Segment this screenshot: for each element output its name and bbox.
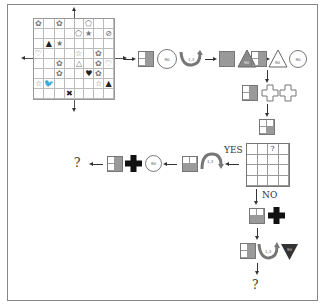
flow-arrow-yes-3: [93, 164, 103, 165]
quad-square-yes-1: [182, 156, 198, 172]
quad-square-step2: [219, 51, 235, 67]
star-icon: ★: [55, 39, 65, 49]
svg-text:90: 90: [275, 60, 281, 65]
grid-cell: [44, 59, 55, 69]
grid-cell: [75, 39, 85, 49]
rotate-circle-yes: 90: [145, 155, 162, 172]
flow-arrowhead-yes-3: [89, 162, 93, 166]
flow-arrow-yes: [229, 164, 239, 165]
no-result-question: ?: [252, 278, 258, 292]
query-grid-cell: ?: [268, 144, 279, 155]
flip-arrow-icon-yes: 1,3: [200, 151, 224, 171]
flow-arrow-down-2: [267, 104, 268, 113]
query-grid-cell: [279, 155, 290, 166]
grid-cell: [55, 29, 65, 39]
x-axis-arrow-left: [21, 56, 25, 60]
grid-cell: [75, 79, 85, 89]
grid-cell: [65, 29, 75, 39]
grid-cell: [34, 29, 44, 39]
flow-arrowhead-1: [132, 57, 136, 61]
query-grid-cell: [247, 176, 258, 187]
query-grid-cell: [258, 176, 269, 187]
outline-cross-icon: [261, 84, 279, 102]
grid-cell: [55, 89, 65, 99]
grid-cell: [94, 29, 104, 39]
grid-cell: [94, 39, 104, 49]
flow-arrowhead-no: [254, 201, 258, 205]
quad-square-no-1: [249, 208, 265, 224]
query-grid-cell: [258, 155, 269, 166]
triangle-icon: ▲: [44, 39, 55, 49]
flow-arrow-down-1: [267, 70, 268, 79]
triangle-icon: ▲: [104, 79, 114, 89]
flower-icon: ✿: [55, 59, 65, 69]
grid-cell: [94, 89, 104, 99]
yes-result-question: ?: [74, 156, 80, 170]
flip-arrow-icon-no: 1,3: [256, 241, 280, 261]
flow-arrow-no-3: [257, 263, 258, 271]
grid-cell: [34, 69, 44, 79]
grid-cell: [55, 49, 65, 59]
quad-square-step3: [251, 51, 267, 67]
flow-arrowhead-no-2: [255, 236, 259, 240]
quad-square-no-2: [240, 243, 256, 259]
symbol-grid: ✿✿⬠⬠★⊘▲★♡☆✿✿△✿♡✿♥✿☆🐦☆▲✖: [33, 18, 115, 100]
flower-icon: ✿: [94, 49, 104, 59]
grid-cell: [44, 19, 55, 29]
heart-outline-icon: ♡: [34, 49, 44, 59]
grid-cell: [65, 79, 75, 89]
grid-cell: [84, 79, 94, 89]
star-outline-icon: ☆: [94, 79, 104, 89]
query-grid-cell: [247, 155, 258, 166]
flower-icon: ✿: [55, 69, 65, 79]
filled-cross-icon: [125, 155, 142, 172]
query-grid-cell: [268, 176, 279, 187]
rotate-circle-step1: 90: [157, 49, 177, 69]
query-grid-cell: [247, 165, 258, 176]
grid-cell: [65, 19, 75, 29]
quad-square-step1: [138, 51, 154, 67]
grid-cell: [34, 59, 44, 69]
grid-cell: [44, 89, 55, 99]
rotate-circle-step3: 90: [289, 50, 307, 68]
grid-cell: [75, 19, 85, 29]
query-grid-cell: [247, 144, 258, 155]
grid-cell: [75, 89, 85, 99]
flow-arrowhead-yes-2: [163, 162, 167, 166]
grid-cell: [104, 19, 114, 29]
flow-arrowhead-2: [213, 57, 217, 61]
query-grid-cell: [258, 144, 269, 155]
svg-text:1,3: 1,3: [265, 249, 272, 254]
flow-arrowhead-down-1: [265, 79, 269, 83]
svg-text:90: 90: [287, 247, 293, 252]
svg-text:1,3: 1,3: [188, 57, 195, 62]
heart-outline-icon: ♡: [104, 59, 114, 69]
grid-cell: [94, 19, 104, 29]
query-grid-cell: [268, 155, 279, 166]
pentagon-icon: ⬠: [84, 19, 94, 29]
quad-square-step4: [242, 85, 258, 101]
grid-cell: [44, 29, 55, 39]
heart-icon: ♥: [84, 69, 94, 79]
query-grid-cell: [279, 144, 290, 155]
flow-arrow-no: [256, 189, 257, 201]
filled-cross-icon: [268, 207, 285, 224]
y-axis-arrow-up: [72, 7, 76, 11]
grid-cell: [84, 59, 94, 69]
flow-arrow-1: [124, 59, 132, 60]
query-grid-cell: [279, 165, 290, 176]
query-grid-cell: [268, 165, 279, 176]
flower-icon: ✿: [94, 59, 104, 69]
filled-inverted-triangle: 90: [280, 243, 299, 261]
flow-arrowhead-down-2: [265, 113, 269, 117]
svg-text:1,3: 1,3: [207, 159, 214, 164]
rotate-angle-label: 90: [164, 57, 169, 62]
outline-cross-icon: [279, 84, 297, 102]
flow-arrow-no-2: [257, 228, 258, 236]
grid-cell: [75, 69, 85, 79]
quad-square-step5: [259, 119, 275, 135]
x-mark-icon: ✖: [65, 89, 75, 99]
quad-square-yes-2: [107, 156, 123, 172]
flow-arrowhead-no-3: [255, 271, 259, 275]
query-grid-cell: [258, 165, 269, 176]
